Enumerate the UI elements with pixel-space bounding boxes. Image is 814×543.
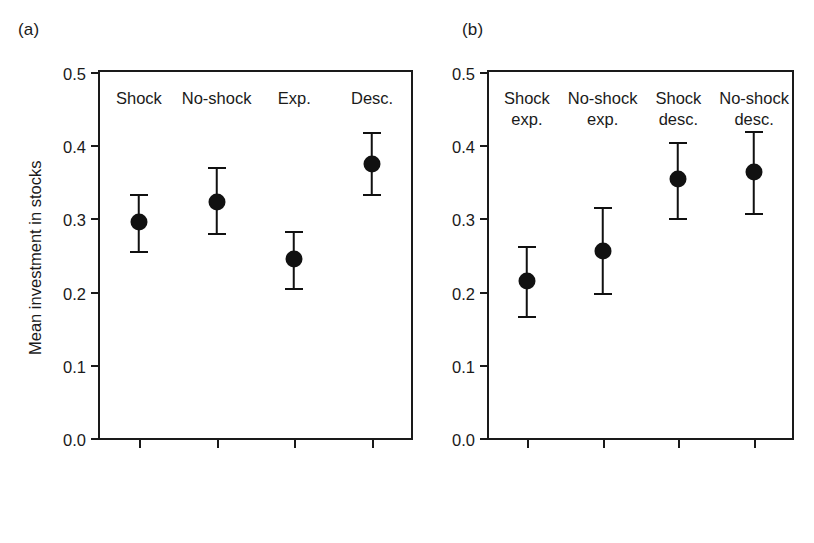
y-axis-tick-label: 0.1 bbox=[452, 357, 475, 376]
y-axis-tick: 0.1 bbox=[480, 365, 489, 367]
y-axis-tick: 0.2 bbox=[91, 292, 100, 294]
data-point-marker bbox=[130, 214, 147, 231]
y-axis-tick-label: 0.2 bbox=[63, 284, 86, 303]
error-bar-cap-upper bbox=[518, 246, 536, 248]
error-bar-cap-upper bbox=[594, 207, 612, 209]
x-axis-tick bbox=[603, 438, 605, 448]
x-axis-tick-label: No-shock bbox=[182, 88, 252, 109]
figure-root: (a) Mean investment in stocks 0.00.10.20… bbox=[0, 0, 814, 543]
data-point-marker bbox=[518, 273, 535, 290]
error-bar-cap-lower bbox=[594, 293, 612, 295]
error-bar-cap-upper bbox=[745, 131, 763, 133]
error-bar-cap-upper bbox=[669, 142, 687, 144]
x-axis-tick-label-line: Exp. bbox=[278, 88, 311, 109]
x-axis-tick-label-line: desc. bbox=[655, 109, 701, 130]
x-axis-tick-label: No-shockexp. bbox=[568, 88, 638, 130]
x-axis-tick bbox=[372, 438, 374, 448]
error-bar-cap-lower bbox=[130, 251, 148, 253]
y-axis-title: Mean investment in stocks bbox=[26, 161, 45, 355]
data-point-marker bbox=[594, 242, 611, 259]
x-axis-tick bbox=[754, 438, 756, 448]
y-axis-tick-label: 0.2 bbox=[452, 284, 475, 303]
plot-area-a: 0.00.10.20.30.40.5ShockNo-shockExp.Desc. bbox=[98, 70, 413, 440]
y-axis-tick-label: 0.4 bbox=[63, 138, 86, 157]
y-axis-tick: 0.3 bbox=[91, 218, 100, 220]
error-bar-cap-upper bbox=[130, 194, 148, 196]
error-bar-cap-lower bbox=[745, 213, 763, 215]
x-axis-tick-label-line: No-shock bbox=[568, 88, 638, 109]
data-point-marker bbox=[208, 194, 225, 211]
x-axis-tick-label-line: Shock bbox=[504, 88, 550, 109]
y-axis-tick: 0.4 bbox=[91, 145, 100, 147]
y-axis-tick: 0.1 bbox=[91, 365, 100, 367]
y-axis-tick: 0.0 bbox=[91, 438, 100, 440]
error-bar-cap-upper bbox=[208, 167, 226, 169]
y-axis-tick-label: 0.5 bbox=[452, 65, 475, 84]
y-axis-tick-label: 0.4 bbox=[452, 138, 475, 157]
y-axis-tick: 0.3 bbox=[480, 218, 489, 220]
plot-area-b: 0.00.10.20.30.40.5Shockexp.No-shockexp.S… bbox=[487, 70, 794, 440]
data-point-marker bbox=[746, 163, 763, 180]
error-bar-cap-upper bbox=[363, 132, 381, 134]
x-axis-tick-label: Exp. bbox=[278, 88, 311, 109]
y-axis-tick-label: 0.3 bbox=[452, 211, 475, 230]
x-axis-tick-label-line: Shock bbox=[655, 88, 701, 109]
panel-b: (b) 0.00.10.20.30.40.5Shockexp.No-shocke… bbox=[440, 0, 814, 543]
panel-a: (a) Mean investment in stocks 0.00.10.20… bbox=[0, 0, 440, 543]
y-axis-tick-label: 0.5 bbox=[63, 65, 86, 84]
error-bar-cap-lower bbox=[363, 194, 381, 196]
error-bar-cap-lower bbox=[518, 316, 536, 318]
x-axis-tick-label: Desc. bbox=[351, 88, 393, 109]
y-axis-tick: 0.5 bbox=[480, 72, 489, 74]
y-axis-tick: 0.4 bbox=[480, 145, 489, 147]
y-axis-tick-label: 0.0 bbox=[452, 431, 475, 450]
y-axis-tick: 0.2 bbox=[480, 292, 489, 294]
y-axis-tick-label: 0.1 bbox=[63, 357, 86, 376]
y-axis-tick-label: 0.3 bbox=[63, 211, 86, 230]
x-axis-tick bbox=[294, 438, 296, 448]
x-axis-tick-label-line: Desc. bbox=[351, 88, 393, 109]
x-axis-tick-label: Shockdesc. bbox=[655, 88, 701, 130]
y-axis-tick-label: 0.0 bbox=[63, 431, 86, 450]
x-axis-tick-label-line: No-shock bbox=[719, 88, 789, 109]
error-bar-cap-lower bbox=[285, 288, 303, 290]
data-point-marker bbox=[286, 250, 303, 267]
x-axis-tick-label: No-shockdesc. bbox=[719, 88, 789, 130]
x-axis-tick bbox=[139, 438, 141, 448]
x-axis-tick bbox=[527, 438, 529, 448]
error-bar-cap-upper bbox=[285, 231, 303, 233]
error-bar-cap-lower bbox=[208, 233, 226, 235]
error-bar-cap-lower bbox=[669, 218, 687, 220]
x-axis-tick-label: Shock bbox=[116, 88, 162, 109]
x-axis-tick-label-line: desc. bbox=[719, 109, 789, 130]
x-axis-tick-label-line: exp. bbox=[504, 109, 550, 130]
x-axis-tick-label-line: No-shock bbox=[182, 88, 252, 109]
x-axis-tick-label-line: exp. bbox=[568, 109, 638, 130]
x-axis-tick bbox=[217, 438, 219, 448]
panel-b-label: (b) bbox=[462, 20, 483, 40]
panel-a-label: (a) bbox=[18, 20, 39, 40]
x-axis-tick-label-line: Shock bbox=[116, 88, 162, 109]
y-axis-tick: 0.0 bbox=[480, 438, 489, 440]
x-axis-tick-label: Shockexp. bbox=[504, 88, 550, 130]
data-point-marker bbox=[670, 170, 687, 187]
x-axis-tick bbox=[678, 438, 680, 448]
data-point-marker bbox=[364, 155, 381, 172]
y-axis-tick: 0.5 bbox=[91, 72, 100, 74]
